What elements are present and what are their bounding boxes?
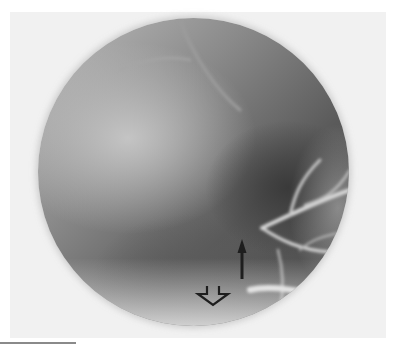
caption-divider <box>0 342 76 344</box>
solid-arrow-icon <box>238 239 247 279</box>
hollow-arrow-icon <box>198 286 228 305</box>
annotation-layer <box>0 0 393 347</box>
